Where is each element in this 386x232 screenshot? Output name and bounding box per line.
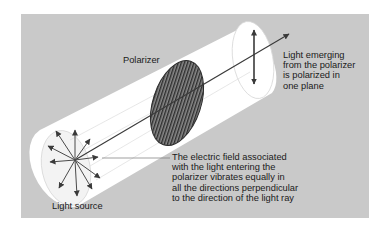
light-source-label: Light source	[52, 201, 103, 211]
emerging-light-label: Light emerging from the polarizer is pol…	[283, 50, 355, 91]
polarizer-label: Polarizer	[123, 55, 160, 65]
electric-field-label: The electric field associated with the l…	[172, 152, 298, 203]
